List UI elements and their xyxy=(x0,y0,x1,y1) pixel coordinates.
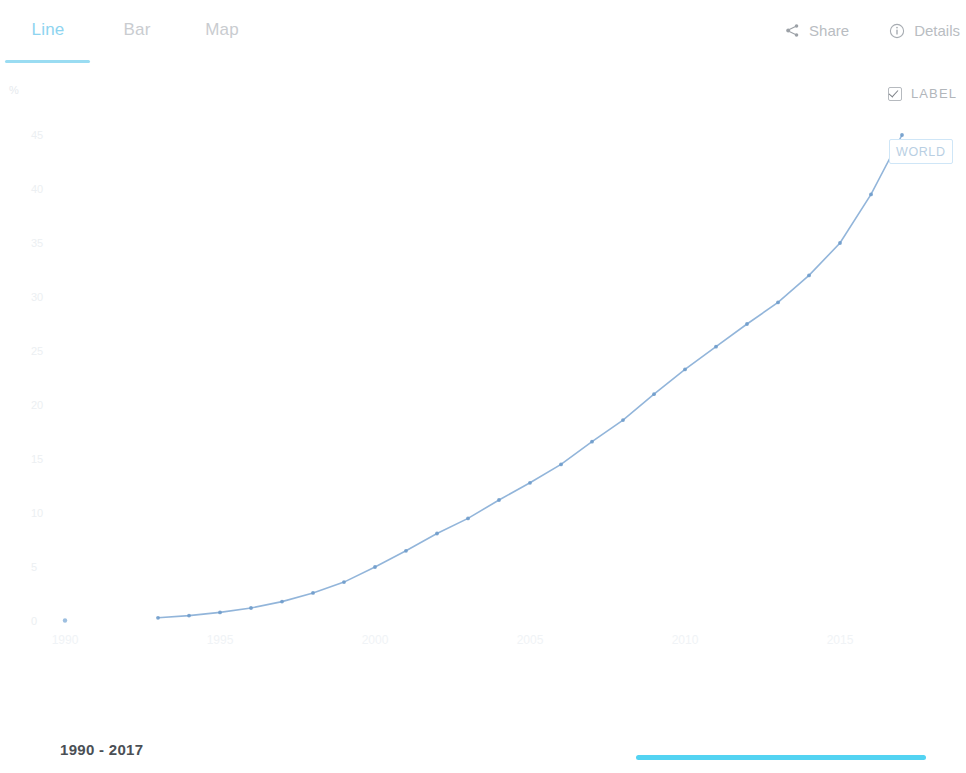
y-axis-tick-label: 5 xyxy=(31,561,37,573)
data-point[interactable] xyxy=(528,481,532,485)
info-circle-icon xyxy=(889,23,905,39)
chart-canvas: 051015202530354045% 19901995200020052010… xyxy=(0,78,966,658)
tab-line[interactable]: Line xyxy=(0,16,96,46)
data-point[interactable] xyxy=(807,274,811,278)
y-axis-tick-label: 35 xyxy=(31,237,43,249)
data-point[interactable] xyxy=(63,618,67,622)
data-point[interactable] xyxy=(838,241,842,245)
y-axis-tick-label: 0 xyxy=(31,615,37,627)
data-point[interactable] xyxy=(776,301,780,305)
data-point[interactable] xyxy=(342,580,346,584)
active-tab-indicator xyxy=(5,60,90,63)
line-chart-svg: 051015202530354045% 19901995200020052010… xyxy=(0,78,966,658)
tab-map-label: Map xyxy=(205,20,239,39)
data-point[interactable] xyxy=(187,614,191,618)
footer: 1990 - 2017 xyxy=(0,700,966,773)
data-point[interactable] xyxy=(280,600,284,604)
y-axis-tick-label: 10 xyxy=(31,507,43,519)
series-end-label-text: WORLD xyxy=(896,145,946,159)
data-point[interactable] xyxy=(900,133,904,137)
data-point[interactable] xyxy=(683,368,687,372)
series-points-world xyxy=(63,133,904,623)
share-button[interactable]: Share xyxy=(785,22,849,39)
y-axis-tick-label: 15 xyxy=(31,453,43,465)
data-point[interactable] xyxy=(156,616,160,620)
tab-bar[interactable]: Bar xyxy=(96,16,178,46)
time-range-text: 1990 - 2017 xyxy=(60,741,143,758)
x-axis-tick-label: 2015 xyxy=(827,633,854,647)
time-range-slider[interactable] xyxy=(636,755,926,760)
toolbar: Line Bar Map Share xyxy=(0,0,966,66)
y-axis-tick-label: 45 xyxy=(31,129,43,141)
data-point[interactable] xyxy=(249,606,253,610)
share-label: Share xyxy=(809,22,849,39)
data-point[interactable] xyxy=(435,532,439,536)
data-point[interactable] xyxy=(559,463,563,467)
data-point[interactable] xyxy=(404,549,408,553)
share-icon xyxy=(785,23,800,38)
x-axis-tick-label: 2010 xyxy=(672,633,699,647)
toolbar-actions: Share Details xyxy=(785,22,960,39)
x-axis-tick-label: 2000 xyxy=(362,633,389,647)
y-axis-tick-label: 20 xyxy=(31,399,43,411)
y-axis-tick-label: 25 xyxy=(31,345,43,357)
data-point[interactable] xyxy=(311,591,315,595)
data-point[interactable] xyxy=(497,498,501,502)
tab-map[interactable]: Map xyxy=(178,16,266,46)
data-point[interactable] xyxy=(590,440,594,444)
details-button[interactable]: Details xyxy=(889,22,960,39)
data-point[interactable] xyxy=(652,392,656,396)
data-point[interactable] xyxy=(218,611,222,615)
x-axis-tick-label: 1990 xyxy=(52,633,79,647)
series-line-world xyxy=(158,135,902,618)
y-axis-tick-label: 30 xyxy=(31,291,43,303)
y-axis: 051015202530354045% xyxy=(9,84,43,627)
data-point[interactable] xyxy=(714,345,718,349)
data-point[interactable] xyxy=(373,565,377,569)
details-label: Details xyxy=(914,22,960,39)
y-axis-tick-label: 40 xyxy=(31,183,43,195)
tab-line-label: Line xyxy=(32,20,65,39)
data-point[interactable] xyxy=(621,418,625,422)
data-point[interactable] xyxy=(466,517,470,521)
x-axis-tick-label: 2005 xyxy=(517,633,544,647)
data-point[interactable] xyxy=(869,193,873,197)
tab-bar-label: Bar xyxy=(123,20,150,39)
x-axis: 199019952000200520102015 xyxy=(52,633,854,647)
x-axis-tick-label: 1995 xyxy=(207,633,234,647)
series-end-label[interactable]: WORLD xyxy=(889,139,953,164)
data-point[interactable] xyxy=(745,322,749,326)
y-axis-unit-label: % xyxy=(9,84,19,96)
chart-type-tabs: Line Bar Map xyxy=(0,16,266,46)
chart-page: Line Bar Map Share xyxy=(0,0,966,773)
